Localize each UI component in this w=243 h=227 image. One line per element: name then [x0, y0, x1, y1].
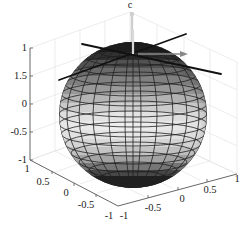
- svg-text:0: 0: [179, 193, 184, 204]
- svg-text:0: 0: [63, 187, 68, 198]
- z-tick-labels: 1 1.5 0 -0.5 -1: [10, 42, 27, 165]
- svg-text:-0.5: -0.5: [145, 202, 162, 213]
- svg-text:1: 1: [24, 163, 29, 174]
- svg-text:1: 1: [22, 42, 27, 53]
- sphere-surface-plot: c 1 1.5 0 -0.5 -1 1 0.5 0 -0.5 -1 -1 -0.…: [0, 0, 243, 227]
- svg-text:0.5: 0.5: [36, 176, 49, 187]
- svg-text:0.5: 0.5: [203, 184, 216, 195]
- sphere: [55, 40, 215, 190]
- svg-text:1: 1: [234, 173, 239, 184]
- svg-text:0: 0: [22, 98, 27, 109]
- svg-text:-0.5: -0.5: [10, 126, 27, 137]
- svg-text:1.5: 1.5: [14, 70, 27, 81]
- top-axis-label: c: [128, 0, 133, 10]
- svg-text:-1: -1: [120, 210, 129, 221]
- svg-text:-0.5: -0.5: [78, 199, 95, 210]
- svg-text:-1: -1: [105, 210, 114, 221]
